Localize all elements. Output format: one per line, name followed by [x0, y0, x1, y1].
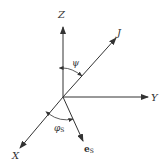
psi-arc [63, 68, 82, 76]
x-label: X [11, 150, 20, 161]
y-label: Y [151, 92, 159, 103]
phis-label-sub: S [60, 126, 64, 133]
phis-label: φS [54, 123, 64, 133]
psi-label: ψ [72, 58, 80, 68]
es-label: eS [84, 144, 94, 154]
j-vector [63, 38, 116, 97]
z-label: Z [57, 9, 66, 20]
j-label: J [115, 27, 122, 38]
coordinate-diagram: Z Y X J eS ψ φS [0, 0, 167, 165]
phis-arc [49, 114, 73, 120]
es-label-sub: S [90, 147, 94, 154]
